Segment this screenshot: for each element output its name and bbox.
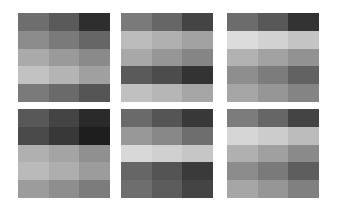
swatch-cell xyxy=(227,66,258,84)
swatch-cell xyxy=(258,145,289,163)
swatch-cell xyxy=(227,31,258,49)
swatch-cell xyxy=(18,127,49,145)
swatch-cell xyxy=(121,162,152,180)
swatch-cell xyxy=(49,84,80,102)
swatch-cell xyxy=(18,13,49,31)
swatch-cell xyxy=(49,66,80,84)
swatch-cell xyxy=(258,162,289,180)
swatch-cell xyxy=(79,145,110,163)
swatch-cell xyxy=(227,49,258,67)
swatch-cell xyxy=(182,84,213,102)
swatch-cell xyxy=(288,84,319,102)
swatch-panel-5 xyxy=(121,109,213,198)
swatch-cell xyxy=(18,109,49,127)
swatch-cell xyxy=(79,13,110,31)
swatch-cell xyxy=(288,162,319,180)
swatch-cell xyxy=(288,109,319,127)
swatch-cell xyxy=(258,127,289,145)
swatch-cell xyxy=(121,109,152,127)
swatch-cell xyxy=(227,180,258,198)
swatch-cell xyxy=(152,162,183,180)
swatch-cell xyxy=(79,31,110,49)
swatch-panel-2 xyxy=(121,13,213,102)
swatch-panel-4 xyxy=(18,109,110,198)
swatch-cell xyxy=(79,162,110,180)
swatch-cell xyxy=(182,49,213,67)
swatch-cell xyxy=(288,127,319,145)
swatch-cell xyxy=(227,162,258,180)
swatch-cell xyxy=(288,49,319,67)
swatch-cell xyxy=(182,162,213,180)
swatch-cell xyxy=(49,145,80,163)
swatch-cell xyxy=(258,180,289,198)
swatch-cell xyxy=(152,180,183,198)
swatch-cell xyxy=(227,127,258,145)
swatch-cell xyxy=(121,31,152,49)
swatch-cell xyxy=(258,49,289,67)
swatch-cell xyxy=(18,49,49,67)
swatch-cell xyxy=(121,49,152,67)
swatch-cell xyxy=(49,180,80,198)
swatch-cell xyxy=(182,109,213,127)
swatch-cell xyxy=(152,66,183,84)
swatch-cell xyxy=(18,162,49,180)
swatch-cell xyxy=(288,180,319,198)
swatch-cell xyxy=(227,84,258,102)
swatch-cell xyxy=(18,84,49,102)
swatch-cell xyxy=(182,13,213,31)
swatch-cell xyxy=(182,127,213,145)
swatch-cell xyxy=(227,109,258,127)
swatch-cell xyxy=(258,84,289,102)
swatch-cell xyxy=(152,84,183,102)
swatch-cell xyxy=(182,180,213,198)
swatch-cell xyxy=(152,13,183,31)
swatch-cell xyxy=(258,66,289,84)
swatch-cell xyxy=(49,49,80,67)
swatch-cell xyxy=(79,109,110,127)
swatch-cell xyxy=(182,66,213,84)
swatch-cell xyxy=(152,31,183,49)
swatch-cell xyxy=(121,127,152,145)
swatch-cell xyxy=(79,49,110,67)
swatch-cell xyxy=(258,109,289,127)
swatch-panel-6 xyxy=(227,109,319,198)
swatch-cell xyxy=(49,127,80,145)
swatch-cell xyxy=(258,31,289,49)
swatch-cell xyxy=(121,145,152,163)
swatch-cell xyxy=(227,13,258,31)
swatch-cell xyxy=(152,127,183,145)
swatch-panel-1 xyxy=(18,13,110,102)
swatch-cell xyxy=(121,66,152,84)
swatch-cell xyxy=(49,13,80,31)
swatch-cell xyxy=(18,180,49,198)
swatch-cell xyxy=(152,109,183,127)
swatch-cell xyxy=(49,31,80,49)
swatch-panel-3 xyxy=(227,13,319,102)
swatch-cell xyxy=(79,66,110,84)
swatch-cell xyxy=(49,109,80,127)
swatch-cell xyxy=(258,13,289,31)
swatch-cell xyxy=(288,31,319,49)
swatch-cell xyxy=(121,13,152,31)
swatch-cell xyxy=(18,66,49,84)
swatch-cell xyxy=(288,145,319,163)
swatch-cell xyxy=(227,145,258,163)
swatch-cell xyxy=(182,31,213,49)
swatch-cell xyxy=(288,13,319,31)
swatch-cell xyxy=(79,127,110,145)
swatch-cell xyxy=(121,180,152,198)
swatch-cell xyxy=(79,84,110,102)
swatch-cell xyxy=(49,162,80,180)
swatch-cell xyxy=(18,31,49,49)
swatch-cell xyxy=(18,145,49,163)
swatch-cell xyxy=(79,180,110,198)
swatch-cell xyxy=(152,145,183,163)
swatch-cell xyxy=(182,145,213,163)
swatch-cell xyxy=(121,84,152,102)
swatch-cell xyxy=(288,66,319,84)
swatch-cell xyxy=(152,49,183,67)
